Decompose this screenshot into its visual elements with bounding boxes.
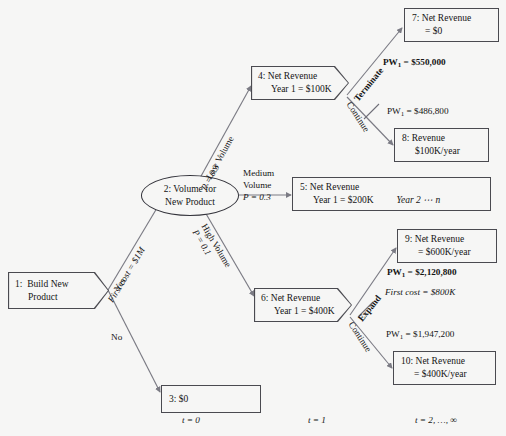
branch-label-no: No <box>111 332 122 344</box>
node-8-revenue-100k-year[interactable]: 8: Revenue $100K/year <box>394 128 489 162</box>
timeline-label-t1: t = 1 <box>308 415 326 427</box>
node-1-line1: Build New <box>27 279 68 289</box>
node-3-line1: 3: $0 <box>169 393 254 406</box>
node-4-line1: 4: Net Revenue <box>258 70 343 83</box>
decision-tree-diagram: 1: Build New Product 2: Volume for New P… <box>0 0 506 436</box>
node-9-net-revenue-600k-year[interactable]: 9: Net Revenue = $600K/year <box>397 229 497 263</box>
node-1-id: 1: <box>15 279 22 289</box>
node-7-line1: 7: Net Revenue <box>412 12 492 25</box>
node-4-line2: Year 1 = $100K <box>258 83 343 96</box>
value-pw-continue-bottom: PW1 = $1,947,200 <box>386 329 454 341</box>
node-4-net-revenue-100k[interactable]: 4: Net Revenue Year 1 = $100K <box>251 66 349 100</box>
value-first-cost-800k: First cost = $800K <box>385 287 455 299</box>
pw-subscript: 1 <box>398 61 402 69</box>
node-6-net-revenue-400k[interactable]: 6: Net Revenue Year 1 = $400K <box>254 288 352 322</box>
branch-label-medium-volume-line2: Volume <box>243 180 271 192</box>
value-pw-continue-top: PW1 = $486,800 <box>387 106 449 118</box>
node-4-text: 4: Net Revenue Year 1 = $100K <box>258 70 343 95</box>
branch-label-medium-volume-line1: Medium <box>243 168 274 180</box>
node-7-line2: = $0 <box>412 25 492 38</box>
node-6-line2: Year 1 = $400K <box>261 305 346 318</box>
node-3-zero[interactable]: 3: $0 <box>161 385 261 413</box>
node-1-line2: Product <box>28 292 58 302</box>
node-5-net-revenue-200k[interactable]: 5: Net Revenue Year 1 = $200K Year 2 ⋯ n <box>292 177 491 211</box>
node-6-line1: 6: Net Revenue <box>261 292 346 305</box>
node-1-text: 1: Build New Product <box>15 278 103 303</box>
value-pw-terminate: PW1 = $550,000 <box>383 57 446 69</box>
node-2-line2: New Product <box>165 196 215 209</box>
node-7-net-revenue-zero[interactable]: 7: Net Revenue = $0 <box>404 8 499 42</box>
node-5-line2b: Year 2 ⋯ n <box>397 194 441 207</box>
node-5-line1: 5: Net Revenue <box>300 181 484 194</box>
node-8-line2: $100K/year <box>402 145 482 158</box>
node-6-text: 6: Net Revenue Year 1 = $400K <box>261 292 346 317</box>
node-10-net-revenue-400k-year[interactable]: 10: Net Revenue = $400K/year <box>393 351 496 385</box>
node-10-line2: = $400K/year <box>401 368 489 381</box>
node-9-line2: = $600K/year <box>405 246 490 259</box>
branch-label-medium-volume-probability: P = 0.3 <box>243 192 271 204</box>
timeline-label-t2: t = 2, …, ∞ <box>415 415 457 427</box>
node-9-line1: 9: Net Revenue <box>405 233 490 246</box>
timeline-label-t0: t = 0 <box>182 415 200 427</box>
node-5-line2: Year 1 = $200K <box>313 194 374 207</box>
value-pw-expand: PW1 = $2,120,800 <box>387 267 457 279</box>
node-1-build-new-product[interactable]: 1: Build New Product <box>8 272 109 309</box>
prune-mark-continue-top <box>364 104 379 119</box>
node-2-volume-for-new-product[interactable]: 2: Volume for New Product <box>141 175 239 216</box>
node-8-line1: 8: Revenue <box>402 132 482 145</box>
node-10-line1: 10: Net Revenue <box>401 355 489 368</box>
